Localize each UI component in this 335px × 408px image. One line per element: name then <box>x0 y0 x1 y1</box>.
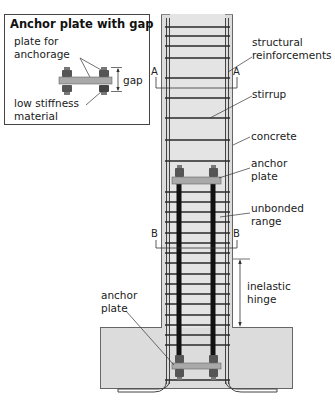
callout-inelastic-hinge: inelastic hinge <box>233 259 291 327</box>
callout-structural-reinforcements: structural reinforcements <box>228 36 332 72</box>
label-hinge-2: hinge <box>247 293 276 305</box>
label-structural-2: reinforcements <box>252 49 332 61</box>
section-a-right: A <box>233 66 240 77</box>
section-b-left: B <box>151 228 158 239</box>
label-structural-1: structural <box>252 36 303 48</box>
inset-label-material-2: material <box>14 110 58 122</box>
label-anchor-bottom-1: anchor <box>101 289 138 301</box>
label-anchor-bottom-2: plate <box>101 302 128 314</box>
inset-label-material-1: low stiffness <box>14 97 79 109</box>
column-anchor-diagram: Anchor plate with gap plate for anchorag… <box>0 0 335 408</box>
inset-title: Anchor plate with gap <box>10 17 153 31</box>
inset-anchor-plate-with-gap: Anchor plate with gap plate for anchorag… <box>5 15 154 125</box>
section-b-right: B <box>233 228 240 239</box>
inset-label-plate-2: anchorage <box>14 48 70 60</box>
label-hinge-1: inelastic <box>247 280 291 292</box>
inset-label-gap: gap <box>123 74 143 86</box>
label-stirrup: stirrup <box>252 88 287 100</box>
callout-concrete: concrete <box>233 130 297 145</box>
label-anchor-top-1: anchor <box>251 157 288 169</box>
concrete-column <box>161 14 233 328</box>
label-concrete: concrete <box>251 130 297 142</box>
label-anchor-top-2: plate <box>251 170 278 182</box>
label-unbonded-1: unbonded <box>251 202 304 214</box>
section-a-left: A <box>151 66 158 77</box>
label-unbonded-2: range <box>251 215 282 227</box>
inset-label-plate-1: plate for <box>14 35 59 47</box>
